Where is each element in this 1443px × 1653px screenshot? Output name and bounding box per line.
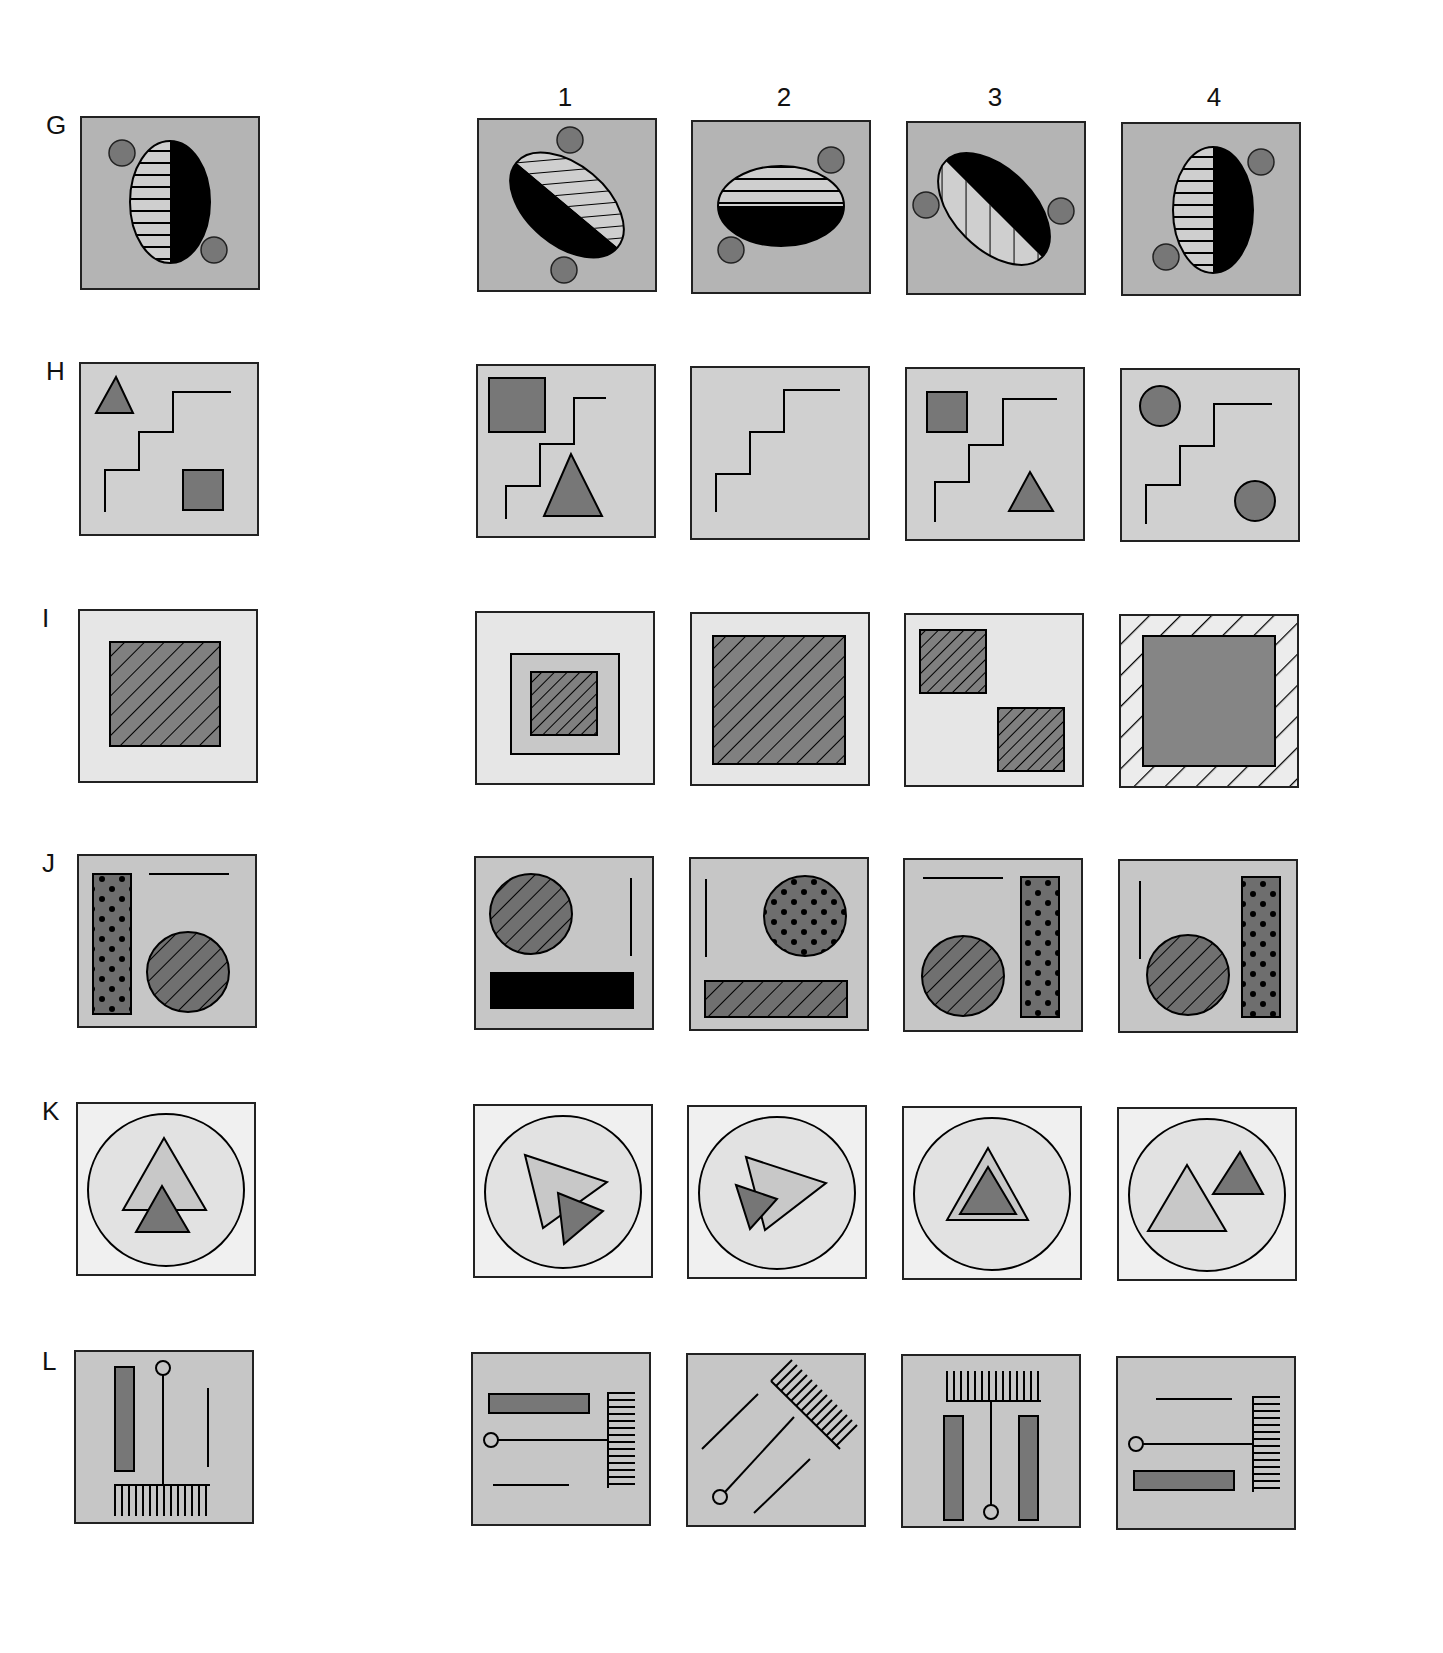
row-g-option-1[interactable] bbox=[477, 118, 657, 292]
staircase-icon bbox=[905, 367, 1085, 541]
row-j-option-4[interactable] bbox=[1118, 859, 1298, 1033]
row-k-option-4[interactable] bbox=[1117, 1107, 1297, 1281]
circle-triangles-icon bbox=[76, 1102, 256, 1276]
column-label-1: 1 bbox=[545, 82, 585, 113]
row-h-option-3[interactable] bbox=[905, 367, 1085, 541]
hatched-square-icon bbox=[904, 613, 1084, 787]
column-label-4: 4 bbox=[1194, 82, 1234, 113]
row-j-option-3[interactable] bbox=[903, 858, 1083, 1032]
row-l-stimulus bbox=[74, 1350, 254, 1524]
row-k-option-3[interactable] bbox=[902, 1106, 1082, 1280]
circle-triangles-icon bbox=[687, 1105, 867, 1279]
row-k-option-2[interactable] bbox=[687, 1105, 867, 1279]
staircase-icon bbox=[476, 364, 656, 538]
row-l-option-4[interactable] bbox=[1116, 1356, 1296, 1530]
row-h-option-1[interactable] bbox=[476, 364, 656, 538]
row-i-option-3[interactable] bbox=[904, 613, 1084, 787]
bar-circle-line-icon bbox=[77, 854, 257, 1028]
ellipse-figure-icon bbox=[80, 116, 260, 290]
row-label-k: K bbox=[42, 1096, 59, 1127]
row-k-stimulus bbox=[76, 1102, 256, 1276]
column-label-3: 3 bbox=[975, 82, 1015, 113]
row-g-option-3[interactable] bbox=[906, 121, 1086, 295]
ellipse-figure-icon bbox=[906, 121, 1086, 295]
row-j-option-1[interactable] bbox=[474, 856, 654, 1030]
bar-circle-line-icon bbox=[474, 856, 654, 1030]
row-h-option-4[interactable] bbox=[1120, 368, 1300, 542]
row-i-option-2[interactable] bbox=[690, 612, 870, 786]
pin-comb-icon bbox=[901, 1354, 1081, 1528]
row-g-option-2[interactable] bbox=[691, 120, 871, 294]
row-h-stimulus bbox=[79, 362, 259, 536]
row-h-option-2[interactable] bbox=[690, 366, 870, 540]
row-label-i: I bbox=[42, 603, 49, 634]
column-label-2: 2 bbox=[764, 82, 804, 113]
staircase-icon bbox=[690, 366, 870, 540]
row-j-stimulus bbox=[77, 854, 257, 1028]
row-label-j: J bbox=[42, 848, 55, 879]
row-g-stimulus bbox=[80, 116, 260, 290]
staircase-icon bbox=[1120, 368, 1300, 542]
row-g-option-4[interactable] bbox=[1121, 122, 1301, 296]
hatched-frame-icon bbox=[1119, 614, 1299, 788]
row-k-option-1[interactable] bbox=[473, 1104, 653, 1278]
circle-triangles-icon bbox=[902, 1106, 1082, 1280]
row-l-option-3[interactable] bbox=[901, 1354, 1081, 1528]
ellipse-figure-icon bbox=[691, 120, 871, 294]
row-i-option-1[interactable] bbox=[475, 611, 655, 785]
pin-comb-icon bbox=[1116, 1356, 1296, 1530]
circle-triangles-icon bbox=[1117, 1107, 1297, 1281]
bar-circle-line-icon bbox=[689, 857, 869, 1031]
bar-circle-line-icon bbox=[903, 858, 1083, 1032]
row-label-g: G bbox=[46, 110, 66, 141]
row-l-option-2[interactable] bbox=[686, 1353, 866, 1527]
circle-triangles-icon bbox=[473, 1104, 653, 1278]
row-l-option-1[interactable] bbox=[471, 1352, 651, 1526]
row-i-option-4[interactable] bbox=[1119, 614, 1299, 788]
staircase-icon bbox=[79, 362, 259, 536]
pin-comb-icon bbox=[74, 1350, 254, 1524]
hatched-square-icon bbox=[690, 612, 870, 786]
bar-circle-line-icon bbox=[1118, 859, 1298, 1033]
hatched-square-icon bbox=[475, 611, 655, 785]
hatched-square-icon bbox=[78, 609, 258, 783]
pin-comb-icon bbox=[686, 1353, 866, 1527]
row-j-option-2[interactable] bbox=[689, 857, 869, 1031]
row-label-l: L bbox=[42, 1346, 56, 1377]
pin-comb-icon bbox=[471, 1352, 651, 1526]
ellipse-figure-icon bbox=[477, 118, 657, 292]
ellipse-figure-icon bbox=[1121, 122, 1301, 296]
row-label-h: H bbox=[46, 356, 65, 387]
row-i-stimulus bbox=[78, 609, 258, 783]
